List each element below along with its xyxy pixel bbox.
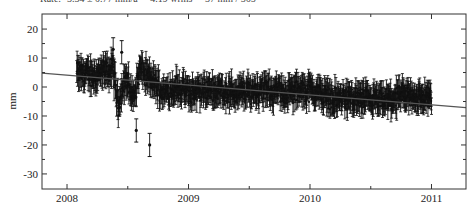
x-tick-label: 2010: [299, 192, 322, 204]
time-series-chart: 2008200920102011 20100-10-20-30 mm: [0, 0, 473, 209]
y-tick-label: -20: [23, 139, 38, 151]
x-tick-label: 2009: [178, 192, 201, 204]
x-tick-label: 2008: [56, 192, 79, 204]
y-tick-label: 10: [27, 52, 39, 64]
y-axis-label: mm: [6, 92, 18, 110]
y-tick-label: 0: [33, 81, 39, 93]
x-tick-label: 2011: [421, 192, 443, 204]
y-tick-label: 20: [27, 23, 39, 35]
data-points: [75, 38, 433, 157]
y-tick-label: -30: [23, 168, 38, 180]
y-tick-label: -10: [23, 110, 38, 122]
